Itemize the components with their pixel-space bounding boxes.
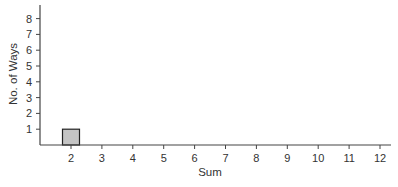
- x-axis-ticks: 23456789101112: [68, 145, 386, 164]
- x-tick-label: 9: [284, 152, 290, 164]
- y-tick-label: 3: [26, 92, 32, 104]
- x-tick-label: 3: [99, 152, 105, 164]
- x-tick-label: 8: [253, 152, 259, 164]
- y-tick-label: 2: [26, 107, 32, 119]
- x-tick-label: 6: [192, 152, 198, 164]
- y-tick-label: 7: [26, 28, 32, 40]
- x-tick-label: 12: [374, 152, 386, 164]
- x-tick-label: 10: [312, 152, 324, 164]
- y-tick-label: 8: [26, 13, 32, 25]
- y-tick-label: 4: [26, 76, 32, 88]
- bars-group: [63, 129, 80, 145]
- y-tick-label: 1: [26, 123, 32, 135]
- y-axis-ticks: 12345678: [26, 13, 40, 136]
- x-tick-label: 11: [343, 152, 354, 164]
- bar-sum-2: [63, 129, 80, 145]
- x-tick-label: 4: [130, 152, 136, 164]
- y-tick-label: 6: [26, 44, 32, 56]
- x-axis-title: Sum: [198, 166, 222, 178]
- y-tick-label: 5: [26, 60, 32, 72]
- x-tick-label: 2: [68, 152, 74, 164]
- x-tick-label: 7: [222, 152, 228, 164]
- y-axis-title: No. of Ways: [7, 43, 19, 105]
- x-tick-label: 5: [161, 152, 167, 164]
- bar-chart: 12345678 23456789101112 Sum No. of Ways: [0, 0, 398, 187]
